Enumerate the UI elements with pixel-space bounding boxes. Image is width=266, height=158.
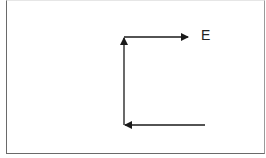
vector-label: E	[201, 27, 210, 43]
vector-diagram	[0, 0, 266, 158]
